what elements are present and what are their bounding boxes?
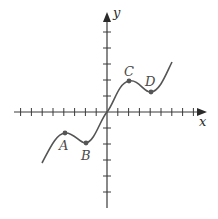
y-axis-label: y	[112, 5, 121, 20]
point-a-label: A	[58, 138, 68, 153]
point-b-marker	[84, 141, 89, 146]
function-graph: x y A B C D	[0, 0, 218, 219]
point-d-label: D	[144, 74, 156, 89]
x-axis: x	[14, 108, 207, 129]
y-axis-arrow-icon	[103, 12, 111, 22]
point-c-label: C	[124, 64, 134, 79]
point-a-marker	[63, 131, 68, 136]
x-axis-label: x	[199, 114, 207, 129]
y-axis: y	[103, 5, 121, 208]
point-b-label: B	[80, 148, 91, 163]
point-c-marker	[127, 79, 132, 84]
point-d-marker	[149, 90, 154, 95]
